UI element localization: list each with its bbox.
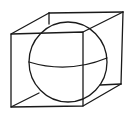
cube-back-bottom-edge <box>100 84 121 85</box>
sphere-in-cube-drawing <box>0 0 134 117</box>
cube-bottom-right-depth-edge <box>83 84 121 106</box>
sphere-equator <box>29 58 107 67</box>
cube-back-top-edge <box>49 12 123 13</box>
cube-bottom-left-depth-edge <box>11 93 39 107</box>
sphere-in-cube-figure: Sphere inscribed in a cube <box>0 0 134 117</box>
cube-top-right-depth-edge <box>83 12 123 32</box>
cube-back-right-edge <box>121 12 123 84</box>
